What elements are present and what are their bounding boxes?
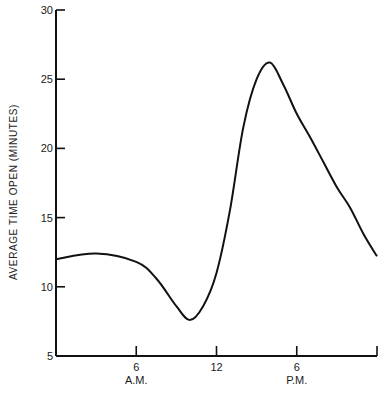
data-line [56, 63, 377, 321]
x-tick-label: 12 [210, 361, 222, 373]
x-tick-sublabel: A.M. [125, 374, 148, 386]
x-tick-label: 6 [294, 361, 300, 373]
y-tick-label: 25 [41, 73, 53, 85]
y-tick-label: 5 [47, 350, 53, 362]
axes: 510152025306A.M.126P.M. [41, 4, 377, 386]
y-tick-label: 20 [41, 142, 53, 154]
y-tick-label: 10 [41, 281, 53, 293]
y-tick-label: 30 [41, 4, 53, 16]
line-chart: 510152025306A.M.126P.M. [0, 0, 386, 395]
y-axis-label: AVERAGE TIME OPEN (MINUTES) [8, 104, 19, 280]
x-tick-sublabel: P.M. [286, 374, 307, 386]
x-tick-label: 6 [133, 361, 139, 373]
y-tick-label: 15 [41, 212, 53, 224]
